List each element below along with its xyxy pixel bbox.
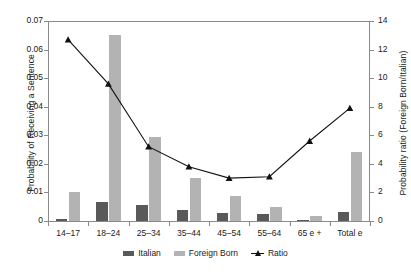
chart-legend: ItalianForeign BornRatio: [0, 248, 411, 258]
legend-item-ratio[interactable]: Ratio: [251, 248, 288, 258]
x-tick: [169, 222, 170, 226]
ratio-marker: [145, 143, 152, 149]
y-tick-label-left: 0.04: [3, 101, 43, 111]
bar-dark-swatch-icon: [123, 251, 134, 256]
y-tick-right: [370, 78, 374, 79]
y-tick-label-right: 4: [378, 158, 411, 168]
ratio-marker: [185, 163, 192, 169]
y-axis-left-title: Probability of Receiving a Sentence: [26, 38, 36, 208]
x-tick-label: 18–24: [88, 228, 128, 238]
y-tick-label-left: 0.03: [3, 129, 43, 139]
y-tick-right: [370, 21, 374, 22]
x-tick-label: 35–44: [169, 228, 209, 238]
ratio-marker: [346, 105, 353, 111]
x-tick-label: 14–17: [48, 228, 88, 238]
y-axis-right-title: Probability ratio (Foreign Born/Italian): [398, 38, 408, 208]
legend-item-italian[interactable]: Italian: [123, 248, 161, 258]
ratio-markers: [65, 36, 354, 181]
x-tick: [330, 222, 331, 226]
line-triangle-icon: [251, 250, 264, 257]
y-tick-label-right: 14: [378, 15, 411, 25]
x-tick: [249, 222, 250, 226]
y-tick-label-left: 0.02: [3, 158, 43, 168]
bar-light-swatch-icon: [174, 251, 185, 256]
x-tick: [48, 222, 49, 226]
x-tick: [88, 222, 89, 226]
y-tick-label-right: 10: [378, 72, 411, 82]
y-tick-label-left: 0.07: [3, 15, 43, 25]
y-tick-right: [370, 50, 374, 51]
y-tick-label-right: 8: [378, 101, 411, 111]
legend-label: Ratio: [268, 248, 288, 258]
plot-area: 00.010.020.030.040.050.060.07 0246810121…: [48, 21, 370, 222]
x-tick-label: 45–54: [209, 228, 249, 238]
y-tick-right: [370, 135, 374, 136]
y-tick-right: [370, 107, 374, 108]
y-tick-label-right: 2: [378, 186, 411, 196]
x-tick: [290, 222, 291, 226]
y-tick-label-left: 0.01: [3, 186, 43, 196]
legend-item-foreign-born[interactable]: Foreign Born: [174, 248, 238, 258]
ratio-line-series: [48, 21, 370, 222]
x-tick: [370, 222, 371, 226]
legend-label: Italian: [138, 248, 161, 258]
chart-container: Probability of Receiving a Sentence Prob…: [0, 0, 411, 274]
y-tick-label-left: 0.06: [3, 44, 43, 54]
y-tick-label-right: 12: [378, 44, 411, 54]
x-tick-label: Total e: [330, 228, 370, 238]
ratio-polyline: [68, 40, 350, 179]
legend-label: Foreign Born: [189, 248, 238, 258]
y-tick-label-left: 0.05: [3, 72, 43, 82]
x-tick: [129, 222, 130, 226]
x-tick-label: 55–64: [249, 228, 289, 238]
y-tick-label-right: 6: [378, 129, 411, 139]
y-tick-label-right: 0: [378, 215, 411, 225]
x-tick: [209, 222, 210, 226]
x-tick-label: 25–34: [129, 228, 169, 238]
y-tick-right: [370, 164, 374, 165]
y-tick-right: [370, 192, 374, 193]
x-tick-label: 65 e +: [290, 228, 330, 238]
ratio-marker: [65, 36, 72, 42]
y-tick-label-left: 0: [3, 215, 43, 225]
